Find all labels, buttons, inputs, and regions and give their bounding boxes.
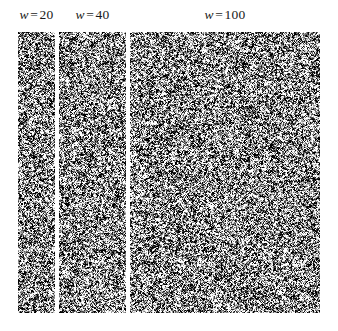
noise-panel-w40	[59, 32, 126, 313]
panel-label-variable: w	[76, 7, 85, 22]
panel-label-value: 100	[225, 7, 246, 22]
noise-texture-canvas	[59, 32, 126, 313]
panel-label-w20: w=20	[18, 7, 55, 23]
noise-panel-w100	[130, 32, 320, 313]
figure-canvas: w=20 w=40 w=100	[0, 0, 338, 331]
panel-label-operator: =	[214, 7, 225, 22]
noise-panel-w20	[18, 32, 55, 313]
panel-label-operator: =	[85, 7, 96, 22]
panel-label-value: 40	[96, 7, 110, 22]
panel-label-value: 20	[40, 7, 54, 22]
panel-label-operator: =	[29, 7, 40, 22]
noise-texture-canvas	[130, 32, 320, 313]
panel-label-variable: w	[20, 7, 29, 22]
panel-label-variable: w	[205, 7, 214, 22]
noise-texture-canvas	[18, 32, 55, 313]
panel-label-w100: w=100	[130, 7, 320, 23]
panel-label-w40: w=40	[59, 7, 126, 23]
